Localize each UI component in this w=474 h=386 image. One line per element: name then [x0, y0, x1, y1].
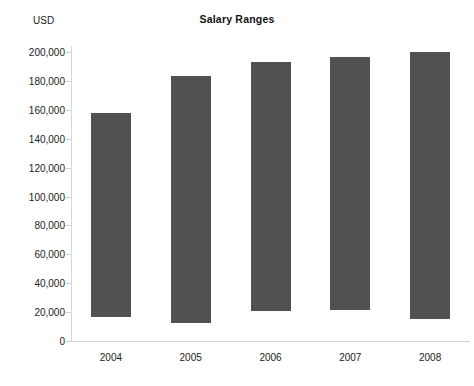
x-axis-tick-label: 2008: [419, 352, 441, 363]
bar-2008[interactable]: [410, 52, 450, 319]
y-axis-tick: [66, 139, 71, 140]
x-axis-tick-label: 2005: [180, 352, 202, 363]
y-axis-tick-labels: 200,000180,000160,000140,000120,000100,0…: [8, 52, 65, 341]
y-axis-tick: [66, 52, 71, 53]
chart-title: Salary Ranges: [0, 13, 474, 25]
y-axis-tick-label: 20,000: [11, 307, 65, 318]
y-axis-tick: [66, 254, 71, 255]
bar-2004[interactable]: [91, 113, 131, 317]
y-axis-tick: [66, 110, 71, 111]
y-axis-tick-label: 40,000: [11, 278, 65, 289]
y-axis-tick-label: 200,000: [11, 47, 65, 58]
y-axis-tick-label: 80,000: [11, 220, 65, 231]
x-axis-tick-label: 2006: [259, 352, 281, 363]
bar-2007[interactable]: [330, 57, 370, 310]
salary-ranges-chart: USD Salary Ranges 200,000180,000160,0001…: [0, 0, 474, 386]
y-axis-tick-label: 140,000: [11, 133, 65, 144]
x-axis-line: [71, 341, 470, 342]
x-axis-tick-label: 2004: [100, 352, 122, 363]
y-axis-tick: [66, 81, 71, 82]
y-axis-tick-label: 100,000: [11, 191, 65, 202]
bar-2005[interactable]: [171, 76, 211, 323]
y-axis-tick: [66, 197, 71, 198]
y-axis-tick: [66, 312, 71, 313]
y-axis-tick: [66, 168, 71, 169]
y-axis-tick-label: 0: [11, 336, 65, 347]
y-axis-tick: [66, 225, 71, 226]
y-axis-tick-label: 180,000: [11, 75, 65, 86]
x-axis-tick-label: 2007: [339, 352, 361, 363]
y-axis-tick-label: 160,000: [11, 104, 65, 115]
y-axis-tick: [66, 283, 71, 284]
bar-2006[interactable]: [251, 62, 291, 311]
y-axis-tick-label: 60,000: [11, 249, 65, 260]
y-axis-tick: [66, 341, 71, 342]
plot-area: [71, 52, 470, 341]
y-axis-tick-label: 120,000: [11, 162, 65, 173]
